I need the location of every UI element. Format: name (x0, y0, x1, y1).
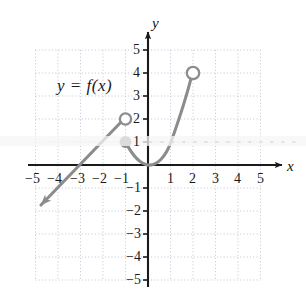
x-tick-label-5: 5 (257, 172, 264, 186)
function-label: y = f(x) (57, 77, 112, 94)
y-axis-label: y (152, 16, 159, 31)
closed-circle-left (120, 137, 130, 147)
y-tick-label--4: −4 (126, 250, 141, 264)
y-tick-label--1: −1 (126, 181, 141, 195)
x-tick-label-3: 3 (212, 172, 219, 186)
function-markers (120, 67, 199, 147)
linear-branch (41, 120, 124, 206)
y-tick-label-4: 4 (133, 66, 140, 80)
x-tick-label--3: −3 (70, 172, 85, 186)
x-tick-label-4: 4 (234, 172, 241, 186)
graph-figure: −5 −4 −3 −2 −1 1 2 3 4 5 5 4 3 2 1 −1 −2… (0, 0, 306, 297)
y-tick-label--3: −3 (126, 227, 141, 241)
x-tick-label--2: −2 (92, 172, 107, 186)
x-tick-label--4: −4 (47, 172, 62, 186)
y-tick-label-1: 1 (133, 135, 140, 149)
x-axis-label: x (287, 159, 294, 174)
open-circle-right (187, 67, 199, 79)
x-tick-label-2: 2 (189, 172, 196, 186)
x-tick-label--5: −5 (25, 172, 40, 186)
x-tick-label-1: 1 (167, 172, 174, 186)
coordinate-plane (0, 0, 306, 297)
y-tick-label-2: 2 (133, 112, 140, 126)
axis-lines (28, 32, 282, 287)
open-circle-left (120, 113, 131, 124)
y-tick-label--2: −2 (126, 204, 141, 218)
y-tick-label--5: −5 (126, 273, 141, 287)
y-tick-label-5: 5 (133, 43, 140, 57)
y-tick-label-3: 3 (133, 89, 140, 103)
